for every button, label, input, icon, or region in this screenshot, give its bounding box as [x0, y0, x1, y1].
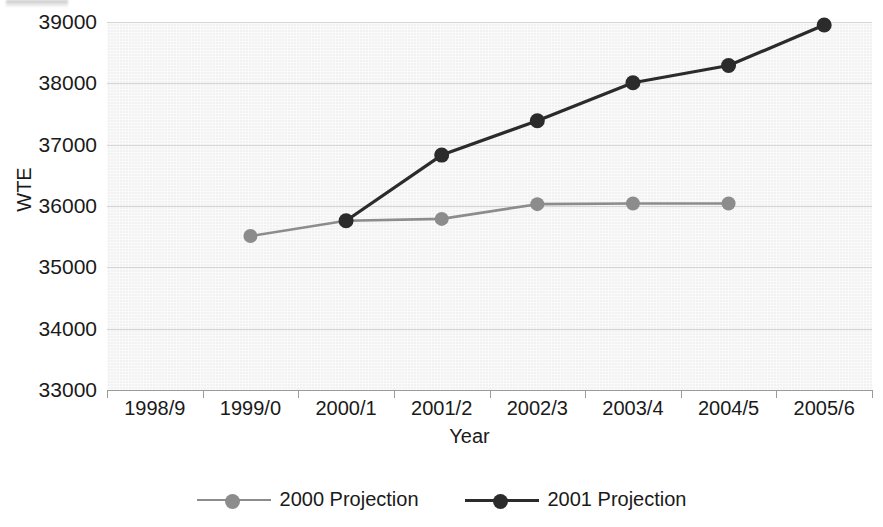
- plot-area: [107, 22, 872, 390]
- gridline: [107, 22, 872, 23]
- y-tick-label: 35000: [5, 256, 97, 277]
- gridline: [107, 329, 872, 330]
- gridline: [107, 145, 872, 146]
- line-chart: 33000340003500036000370003800039000 WTE …: [0, 0, 883, 527]
- x-axis-title-text: Year: [449, 425, 489, 447]
- legend-item[interactable]: 2001 Projection: [465, 488, 687, 511]
- x-tick-label: 2003/4: [578, 396, 688, 420]
- y-tick-label: 38000: [5, 72, 97, 93]
- x-tick-label: 1998/9: [100, 396, 210, 420]
- gridline: [107, 267, 872, 268]
- x-tick-label: 2005/6: [769, 396, 879, 420]
- y-tick-label: 39000: [5, 11, 97, 32]
- legend-label: 2001 Projection: [548, 488, 687, 511]
- y-tick-label: 37000: [5, 134, 97, 155]
- y-tick-label: 34000: [5, 318, 97, 339]
- y-tick-label: 33000: [5, 379, 97, 400]
- gridline: [107, 206, 872, 207]
- x-axis-title: Year: [0, 425, 883, 448]
- legend-item[interactable]: 2000 Projection: [197, 488, 419, 511]
- legend-marker-icon: [225, 494, 240, 509]
- legend-label: 2000 Projection: [280, 488, 419, 511]
- gridline: [107, 83, 872, 84]
- y-axis-title: WTE: [13, 160, 36, 220]
- scan-artifact: [6, 0, 68, 7]
- legend-marker-icon: [493, 494, 508, 509]
- x-tick-label: 2004/5: [674, 396, 784, 420]
- x-tick-label: 2002/3: [482, 396, 592, 420]
- x-tick-label: 1999/0: [195, 396, 305, 420]
- x-tick-label: 2001/2: [387, 396, 497, 420]
- x-tick-label: 2000/1: [291, 396, 401, 420]
- legend-swatch: [465, 492, 539, 508]
- legend: 2000 Projection2001 Projection: [0, 488, 883, 511]
- legend-swatch: [197, 492, 271, 508]
